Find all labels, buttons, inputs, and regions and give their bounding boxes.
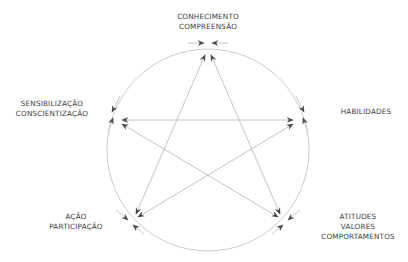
node-label-acao: AÇÃO PARTICIPAÇÃO [36, 212, 116, 232]
node-label-habilidades: HABILIDADES [326, 107, 406, 117]
node-label-atitudes: ATITUDES VALORES COMPORTAMENTOS [310, 212, 406, 242]
node-label-sensibilizacao: SENSIBILIZAÇÃO CONSCIENTIZAÇÃO [4, 99, 100, 119]
label-line: ATITUDES [310, 212, 406, 222]
label-line: COMPORTAMENTOS [310, 232, 406, 242]
node-label-conhecimento: CONHECIMENTO COMPREENSÃO [168, 12, 248, 32]
label-line: PARTICIPAÇÃO [36, 222, 116, 232]
label-line: CONSCIENTIZAÇÃO [4, 109, 100, 119]
label-line: SENSIBILIZAÇÃO [4, 99, 100, 109]
cycle-circle [107, 49, 309, 251]
star-edges [122, 55, 293, 217]
label-line: HABILIDADES [326, 107, 406, 117]
label-line: VALORES [310, 222, 406, 232]
label-line: CONHECIMENTO [168, 12, 248, 22]
label-line: COMPREENSÃO [168, 22, 248, 32]
label-line: AÇÃO [36, 212, 116, 222]
tangent-arrows [108, 43, 308, 234]
